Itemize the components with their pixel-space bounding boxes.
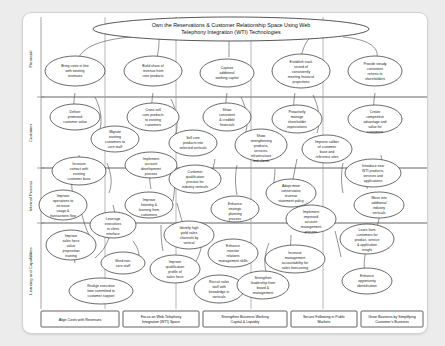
node-i5-line3: learning from <box>139 208 160 212</box>
theme-label-5-line2: Customer's Business <box>375 320 409 324</box>
node-l1[interactable]: Improve sales force value proposition tr… <box>46 230 96 260</box>
node-f1-line1: Bring costs in line <box>61 64 88 68</box>
node-c3[interactable]: Cross-sell core products to existing cus… <box>127 103 179 131</box>
node-i8-line2: improved <box>304 215 318 219</box>
node-i8-line3: account <box>305 220 317 224</box>
node-f1-line2: with existing <box>65 69 84 73</box>
node-f4[interactable]: Establish track record of consistently m… <box>272 54 330 88</box>
node-c5-line3: & credible <box>219 118 235 122</box>
node-i1-line1: Increase <box>72 162 85 166</box>
node-f4-line2: record of <box>294 65 308 69</box>
node-i8[interactable]: Implement improved account management pr… <box>286 205 336 234</box>
theme-box-3[interactable]: Strengthen Business Working Capital & Li… <box>203 311 287 327</box>
node-l9-line2: investor <box>227 249 240 253</box>
theme-box-5[interactable]: Grow Business by Simplifying Customer's … <box>361 311 423 327</box>
theme-label-2-line2: Integration (WTI) Space <box>142 320 180 324</box>
node-f1-line3: revenues <box>68 74 83 78</box>
node-l2-line3: in client <box>107 227 119 231</box>
node-l11-line1: Learn from <box>359 228 376 232</box>
node-l9-line4: management skills <box>219 259 248 263</box>
node-c3-line2: core products <box>142 113 163 117</box>
node-c6[interactable]: Show strengthening products, services, i… <box>235 129 287 163</box>
perspective-label-customer: Customer <box>28 123 33 142</box>
node-c8-line1: Improve caliber <box>315 140 340 144</box>
node-i10[interactable]: Move into additional industry verticals <box>354 192 404 218</box>
node-f5[interactable]: Provide steady consistent returns to sha… <box>348 56 402 86</box>
node-l12-line1: Enhance <box>360 274 374 278</box>
node-l3-line2: core staff <box>116 264 130 268</box>
node-c2-line4: core staff <box>108 145 122 149</box>
node-i10-line2: additional <box>372 201 387 205</box>
node-l7-line3: knowledge in <box>209 290 229 294</box>
theme-box-4[interactable]: Secure Following in Public Markets <box>291 311 357 327</box>
node-c9[interactable]: Create competitive advantage and value f… <box>348 105 402 134</box>
node-i6[interactable]: Enhance strategic planning process <box>211 196 259 222</box>
node-i1[interactable]: Increase contact with existing customer … <box>52 157 106 185</box>
strategy-map-panel: Financial Customer Internal Process Lear… <box>22 12 428 334</box>
node-c4-line2: products into <box>183 141 203 145</box>
node-i9-line2: WTI products, <box>362 169 384 173</box>
node-i9[interactable]: Introduce new WTI products, services and… <box>345 159 401 187</box>
node-f4-line4: meeting financial <box>288 75 314 79</box>
node-f2[interactable]: Build share of revenue from core product… <box>124 56 182 86</box>
node-c1[interactable]: Deliver promised customer value <box>50 104 100 130</box>
node-l7-line1: Recruit sales <box>209 280 229 284</box>
node-f1[interactable]: Bring costs in line with existing revenu… <box>45 56 105 86</box>
node-l7-line4: verticals <box>213 295 226 299</box>
node-l5[interactable]: Identify high yield sales channels by ve… <box>164 221 214 249</box>
node-l6[interactable]: Improve qualification profile of sales f… <box>150 255 200 283</box>
node-l4-line3: customer support <box>87 294 114 298</box>
node-i7[interactable]: Adopt more conservative revenue statemen… <box>266 179 316 207</box>
node-l7[interactable]: Recruit sales staff with knowledge in ve… <box>194 275 244 303</box>
node-i4-line4: industry verticals <box>182 185 208 189</box>
node-f3[interactable]: Capture additional working capital <box>200 59 254 87</box>
node-c7[interactable]: Proactively manage shareholder expectati… <box>272 105 322 133</box>
node-i5-line1: Improve <box>143 198 156 202</box>
node-i4-line3: process for <box>186 180 204 184</box>
node-i2-line5: transactions flow <box>50 214 77 218</box>
node-c5[interactable]: Show consistent & credible financials <box>203 103 251 131</box>
node-c8-line3: base and <box>320 150 334 154</box>
node-i4[interactable]: Customer qualification process for indus… <box>169 165 221 193</box>
node-c4[interactable]: Sell core products into selected vertica… <box>169 130 217 156</box>
node-l9[interactable]: Enhance investor relations management sk… <box>208 239 258 267</box>
node-i5-line2: listening & <box>141 203 158 207</box>
node-l12[interactable]: Enhance opportunity identification <box>342 268 392 294</box>
node-l4[interactable]: Realign executive time committed to cust… <box>69 278 133 304</box>
theme-box-1[interactable]: Align Costs with Revenues <box>41 311 119 327</box>
node-l4-line2: time committed to <box>87 289 115 293</box>
node-i9-line3: services and <box>363 174 383 178</box>
node-f5-line1: Provide steady <box>363 62 386 66</box>
theme-box-2[interactable]: Focus on Web-Telephony Integration (WTI)… <box>123 311 199 327</box>
node-l3[interactable]: Shed non- core staff <box>101 252 145 274</box>
node-c2[interactable]: Migrate existing customers to core staff <box>91 126 139 152</box>
node-i3-line3: development <box>141 167 161 171</box>
node-i2-line2: operations to <box>53 199 73 203</box>
node-l4-line1: Realign executive <box>87 284 115 288</box>
goal-node[interactable]: Own the Reservations & Customer Relation… <box>93 17 369 41</box>
node-l11[interactable]: Learn from customers for product, servic… <box>340 224 394 254</box>
node-l2[interactable]: Leverage executives in client interface <box>90 212 136 238</box>
node-l3-line1: Shed non- <box>115 259 132 263</box>
node-l6-line2: qualification <box>166 265 185 269</box>
node-c8[interactable]: Improve caliber of customer base and ref… <box>302 135 352 163</box>
node-l7-line2: staff with <box>212 285 226 289</box>
node-f3-line1: Capture <box>221 66 234 70</box>
node-l1-line4: proposition <box>62 249 79 253</box>
node-i5[interactable]: Improve listening & learning from custom… <box>125 192 173 218</box>
strategy-map-canvas: Financial Customer Internal Process Lear… <box>23 13 427 333</box>
node-l6-line4: sales force <box>167 275 184 279</box>
node-l10[interactable]: Increase management accountability for s… <box>265 245 325 273</box>
node-i9-line4: applications <box>364 179 383 183</box>
node-l5-line1: Identify high <box>180 226 199 230</box>
node-i7-line3: revenue <box>285 194 298 198</box>
node-i2[interactable]: Improve operations to increase usage & t… <box>39 190 87 220</box>
node-f4-line3: consistently <box>292 70 311 74</box>
node-i3[interactable]: Implement account development process <box>125 152 177 178</box>
theme-label-5-line1: Grow Business by Simplifying <box>368 315 415 319</box>
node-l8[interactable]: Strengthen leadership from board & manag… <box>237 271 289 299</box>
node-l10-line3: accountability for <box>282 261 309 265</box>
node-i1-line3: existing <box>73 172 85 176</box>
goal-label-line1: Own the Reservations & Customer Relation… <box>152 22 311 28</box>
node-l8-line4: management <box>253 291 273 295</box>
